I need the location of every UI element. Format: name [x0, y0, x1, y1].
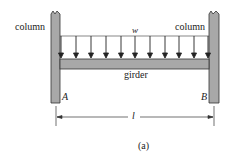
left-column-label: column — [15, 22, 45, 32]
load-label: w — [132, 26, 138, 35]
right-column — [209, 11, 219, 103]
left-column — [51, 11, 60, 103]
span-label: l — [132, 111, 135, 121]
support-b-label: B — [201, 92, 207, 102]
distributed-load-arrows — [59, 36, 211, 58]
span-dimension — [56, 106, 214, 126]
support-a-label: A — [62, 92, 68, 102]
girder-label: girder — [124, 70, 148, 80]
figure-caption: (a) — [138, 141, 149, 151]
girder — [60, 59, 209, 69]
right-column-label: column — [175, 22, 205, 32]
